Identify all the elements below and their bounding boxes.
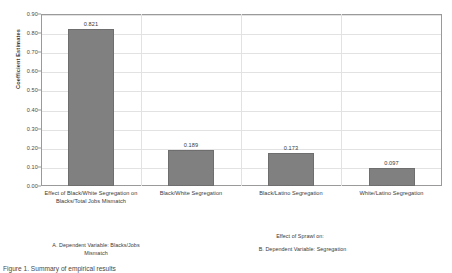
category-label: Effect of Black/White Segregation on Bla… (41, 189, 141, 206)
bar-slot: 0.097 (341, 14, 442, 186)
group-b-heading: Effect of Sprawl on: (185, 232, 415, 240)
group-b-annotation: B. Dependent Variable: Segregation (160, 245, 445, 253)
category-label: White/Latino Segregation (341, 189, 442, 197)
bar-value-label: 0.097 (384, 160, 399, 166)
group-a-annotation: A. Dependent Variable: Blacks/Jobs Misma… (41, 241, 151, 257)
bar-value-label: 0.821 (84, 21, 99, 27)
y-tick-label: 0.70 (4, 49, 38, 55)
bar[interactable] (369, 168, 415, 187)
y-tick-label: 0.30 (4, 126, 38, 132)
bar-value-label: 0.189 (184, 142, 199, 148)
figure-caption: Figure 1. Summary of empirical results (3, 264, 449, 273)
bar-value-label: 0.173 (284, 145, 299, 151)
category-label: Black/Latino Segregation (241, 189, 341, 197)
category-labels: Effect of Black/White Segregation on Bla… (41, 189, 442, 223)
y-tick-label: 0.60 (4, 68, 38, 74)
y-tick-label: 0.90 (4, 11, 38, 17)
y-tick-label: 0.40 (4, 107, 38, 113)
bar[interactable] (68, 29, 114, 186)
bar-slot: 0.821 (41, 14, 141, 186)
bar-slot: 0.189 (141, 14, 241, 186)
y-tick-label: 0.00 (4, 183, 38, 189)
y-tick-label: 0.20 (4, 145, 38, 151)
category-label: Black/White Segregation (141, 189, 241, 197)
bar-slot: 0.173 (241, 14, 341, 186)
y-tick-label: 0.80 (4, 30, 38, 36)
bars-layer: 0.821 0.189 0.173 0.097 (41, 14, 442, 186)
y-tick-label: 0.50 (4, 87, 38, 93)
bar[interactable] (268, 153, 314, 186)
bar[interactable] (168, 150, 214, 186)
y-tick-label: 0.10 (4, 164, 38, 170)
